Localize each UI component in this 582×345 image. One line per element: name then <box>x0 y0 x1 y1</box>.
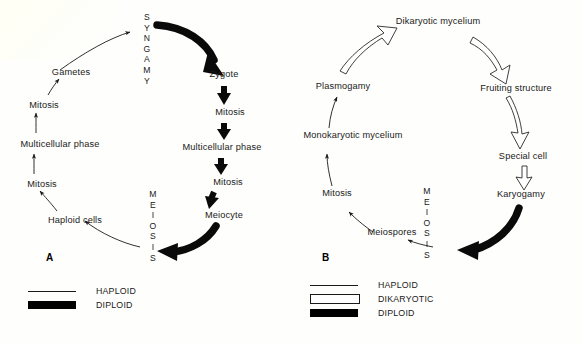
node-mitosis-2: Mitosis <box>27 180 57 189</box>
panel-b-letter: B <box>322 252 329 263</box>
node-karyogamy: Karyogamy <box>497 190 545 199</box>
haploid-line-swatch-b <box>310 285 372 286</box>
panel-a-sexual-life-cycle: S Y N G A M Y M E I O S I S Gametes Mito… <box>0 0 291 345</box>
panel-a-letter: A <box>46 252 53 263</box>
legend-label-diploid-a: DIPLOID <box>90 300 133 310</box>
legend-row-dikaryotic-b: DIKARYOTIC <box>310 292 434 306</box>
arrow-meiocyte-to-meiosis-body <box>173 226 216 252</box>
arrow-meiocyte-to-meiosis-head <box>157 243 178 261</box>
dikaryotic-bar-swatch-b <box>310 294 372 304</box>
node-monokaryotic-mycelium: Monokaryotic mycelium <box>303 131 402 140</box>
arrow-multicellular2-to-mitosis4-head <box>214 164 228 175</box>
panel-b-fungal-life-cycle: M E I O S I S Dikaryotic mycelium Plasmo… <box>291 0 582 345</box>
node-mitosis-4: Mitosis <box>213 178 243 187</box>
legend-label-haploid-a: HAPLOID <box>90 286 136 296</box>
node-gametes: Gametes <box>52 68 90 77</box>
arrow-mitosis-to-monokaryotic <box>327 154 332 186</box>
legend-row-haploid-b: HAPLOID <box>310 278 434 292</box>
arrow-haploidcells-to-mitosis2 <box>40 191 57 211</box>
node-special-cell: Special cell <box>499 152 547 161</box>
hollow-arrow-fruiting-to-special-cell <box>506 96 529 149</box>
node-multicellular-phase-2: Multicellular phase <box>183 143 262 152</box>
arrow-mitosis1-to-gametes <box>48 79 59 95</box>
haploid-line-swatch-a <box>28 291 90 292</box>
arrow-karyogamy-to-meiosis-body <box>474 208 519 250</box>
syngamy-label: S Y N G A M Y <box>143 12 150 86</box>
meiosis-label-b: M E I O S I S <box>423 186 430 260</box>
node-meiocyte: Meiocyte <box>205 211 243 220</box>
arrow-zygote-to-mitosis3-head <box>217 93 231 105</box>
arrow-mitosis3-to-multicellular2-head <box>217 129 231 140</box>
node-plasmogamy: Plasmogamy <box>316 82 371 91</box>
node-multicellular-phase-1: Multicellular phase <box>21 140 100 149</box>
legend-row-diploid-b: DIPLOID <box>310 306 434 320</box>
node-mitosis-b: Mitosis <box>322 189 352 198</box>
legend-a: HAPLOID DIPLOID <box>28 284 136 312</box>
node-zygote: Zygote <box>210 70 239 79</box>
legend-row-haploid-a: HAPLOID <box>28 284 136 298</box>
hollow-arrow-plasmogamy-to-dikaryotic <box>340 26 397 74</box>
life-cycle-figure: S Y N G A M Y M E I O S I S Gametes Mito… <box>0 0 582 345</box>
node-mitosis-1: Mitosis <box>29 101 59 110</box>
node-meiospores: Meiospores <box>368 228 417 237</box>
legend-label-dikaryotic-b: DIKARYOTIC <box>372 294 434 304</box>
node-mitosis-3: Mitosis <box>215 108 245 117</box>
node-dikaryotic-mycelium: Dikaryotic mycelium <box>396 17 481 26</box>
meiosis-label-a: M E I O S I S <box>149 189 156 263</box>
legend-row-diploid-a: DIPLOID <box>28 298 136 312</box>
legend-label-haploid-b: HAPLOID <box>372 280 418 290</box>
hollow-arrow-special-cell-to-karyogamy <box>516 166 532 190</box>
arrow-syngamy-to-zygote-body <box>157 25 214 60</box>
diploid-bar-swatch-b <box>310 309 372 317</box>
diploid-bar-swatch-a <box>28 301 90 309</box>
arrow-gametes-to-syngamy <box>60 32 130 70</box>
node-haploid-cells: Haploid cells <box>48 216 102 225</box>
arrow-monokaryotic-to-plasmogamy <box>329 97 337 128</box>
arrow-karyogamy-to-meiosis-head <box>457 241 479 260</box>
node-fruiting-structure: Fruiting structure <box>480 84 552 93</box>
legend-label-diploid-b: DIPLOID <box>372 308 415 318</box>
arrow-mitosis4-to-meiocyte-head <box>205 196 219 209</box>
hollow-arrow-dikaryotic-to-fruiting <box>470 37 510 84</box>
legend-b: HAPLOID DIKARYOTIC DIPLOID <box>310 278 434 320</box>
